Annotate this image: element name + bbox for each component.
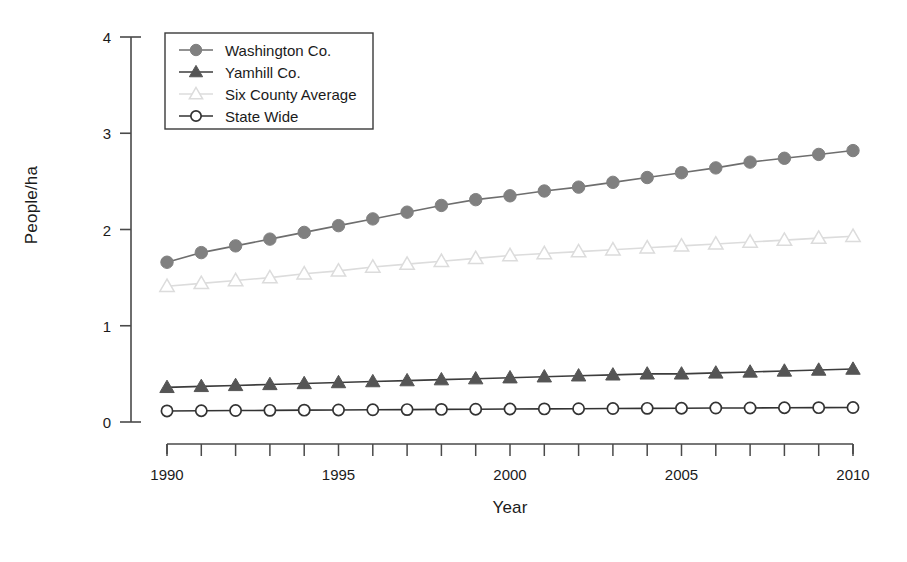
marker-open-circle [813,402,824,413]
marker-open-circle [779,402,790,413]
marker-filled-triangle [846,362,860,374]
marker-filled-circle [332,219,344,231]
marker-filled-circle [161,256,173,268]
marker-open-circle [504,403,515,414]
legend-label: Six County Average [225,86,356,103]
marker-filled-circle [367,213,379,225]
marker-open-circle [607,403,618,414]
marker-open-circle [196,405,207,416]
marker-filled-triangle [571,369,585,381]
marker-filled-triangle [640,367,654,379]
marker-open-circle [299,405,310,416]
marker-filled-circle [607,176,619,188]
marker-filled-triangle [674,367,688,379]
marker-filled-triangle [160,380,174,392]
marker-filled-triangle [434,372,448,384]
chart-figure: 01234 19901995200020052010 Washington Co… [0,0,907,562]
marker-filled-triangle [537,370,551,382]
series-state-wide [161,402,858,417]
line-chart: 01234 19901995200020052010 Washington Co… [0,0,907,562]
marker-open-circle [367,404,378,415]
marker-filled-triangle [709,366,723,378]
marker-open-circle [333,404,344,415]
chart-legend: Washington Co.Yamhill Co.Six County Aver… [165,33,373,129]
marker-filled-circle [778,152,790,164]
marker-open-circle [436,404,447,415]
marker-filled-circle [195,246,207,258]
marker-filled-circle [538,185,550,197]
marker-filled-circle [847,144,859,156]
marker-filled-triangle [263,377,277,389]
y-axis-tick-label: 4 [103,29,111,46]
marker-filled-triangle [228,378,242,390]
x-axis-title: Year [440,498,580,518]
marker-filled-circle [229,240,241,252]
marker-filled-circle [572,181,584,193]
marker-filled-triangle [812,363,826,375]
marker-filled-triangle [400,373,414,385]
marker-open-circle [402,404,413,415]
marker-open-circle [470,404,481,415]
marker-open-triangle [846,229,860,241]
marker-open-circle [745,402,756,413]
x-axis-tick-label: 2005 [665,466,698,483]
marker-filled-circle [675,167,687,179]
marker-filled-triangle [743,365,757,377]
marker-filled-circle [504,190,516,202]
marker-filled-circle [298,226,310,238]
series-yamhill-co [160,362,860,393]
marker-filled-triangle [503,371,517,383]
x-axis-tick-label: 1990 [150,466,183,483]
x-axis-tick-label: 2010 [836,466,869,483]
data-series-group [160,144,860,416]
marker-filled-circle [190,44,201,55]
marker-open-circle [264,405,275,416]
marker-open-circle [161,405,172,416]
marker-open-circle [847,402,858,413]
marker-filled-circle [435,199,447,211]
marker-open-circle [710,402,721,413]
marker-filled-circle [470,193,482,205]
marker-filled-circle [710,162,722,174]
marker-filled-triangle [297,376,311,388]
marker-filled-circle [401,206,413,218]
marker-filled-circle [813,148,825,160]
marker-open-circle [230,405,241,416]
marker-open-circle [573,403,584,414]
marker-filled-triangle [469,371,483,383]
y-axis-title: People/ha [22,145,42,265]
x-axis-tick-label: 1995 [322,466,355,483]
marker-filled-triangle [366,374,380,386]
marker-open-circle [191,111,201,121]
marker-filled-triangle [606,368,620,380]
marker-open-circle [539,403,550,414]
marker-filled-triangle [331,375,345,387]
legend-label: State Wide [225,108,298,125]
legend-label: Washington Co. [225,42,331,59]
y-axis-tick-label: 2 [103,222,111,239]
marker-filled-triangle [194,379,208,391]
marker-open-circle [676,403,687,414]
marker-filled-circle [641,171,653,183]
x-axis: 19901995200020052010 [150,444,869,483]
y-axis: 01234 [103,29,141,431]
marker-filled-triangle [777,364,791,376]
y-axis-tick-label: 3 [103,125,111,142]
marker-open-circle [642,403,653,414]
marker-filled-circle [744,156,756,168]
legend-label: Yamhill Co. [225,64,301,81]
y-axis-tick-label: 0 [103,414,111,431]
marker-filled-circle [264,233,276,245]
x-axis-tick-label: 2000 [493,466,526,483]
y-axis-tick-label: 1 [103,318,111,335]
